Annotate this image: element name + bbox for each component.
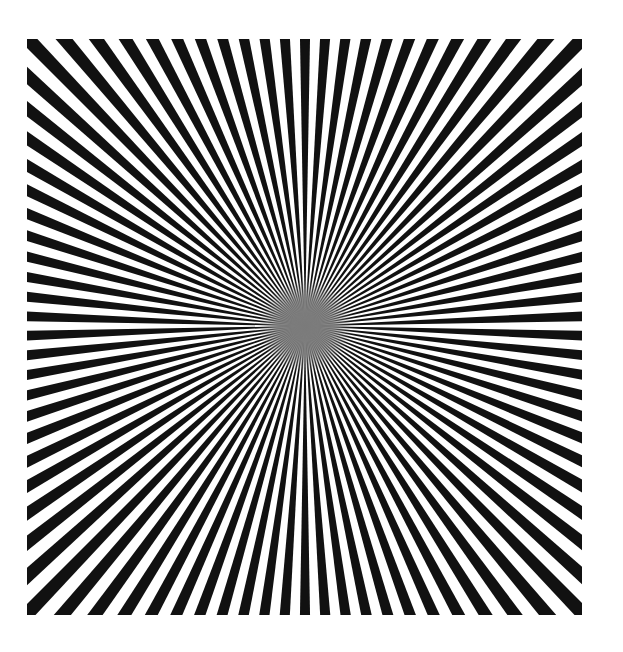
siemens-star-pattern xyxy=(27,39,582,615)
radial-spokes xyxy=(27,39,582,615)
center-blur xyxy=(259,280,351,372)
